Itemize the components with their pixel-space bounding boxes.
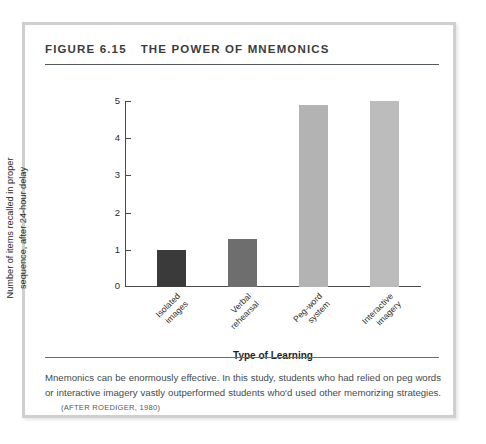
- y-tick-label-5: 5: [115, 94, 120, 107]
- y-tick-label-0: 0: [115, 279, 120, 292]
- bars-group: [125, 101, 421, 287]
- bar-chart: Number of items recalled in proper seque…: [25, 77, 453, 347]
- title-divider: [45, 64, 439, 65]
- figure-panel: FIGURE 6.15THE POWER OF MNEMONICS Number…: [22, 22, 456, 418]
- bar-peg-word-system: [299, 105, 328, 287]
- x-axis-title: Type of Learning: [125, 350, 421, 361]
- bar-isolated-images: [157, 250, 186, 287]
- y-tick-label-1: 1: [115, 243, 120, 256]
- y-tick-label-3: 3: [115, 168, 120, 181]
- y-tick-label-2: 2: [115, 206, 120, 219]
- bar-verbal-rehearsal: [228, 239, 257, 287]
- figure-caption: Mnemonics can be enormously effective. I…: [45, 371, 441, 416]
- y-tick-label-4: 4: [115, 131, 120, 144]
- caption-divider: [45, 357, 439, 358]
- caption-text: Mnemonics can be enormously effective. I…: [45, 372, 441, 398]
- figure-header: FIGURE 6.15THE POWER OF MNEMONICS: [45, 43, 439, 65]
- y-axis-title: Number of items recalled in proper seque…: [4, 133, 29, 323]
- page-title: THE POWER OF MNEMONICS: [141, 43, 330, 55]
- y-axis-title-line-2: sequence, after 24-hour delay: [17, 133, 30, 323]
- y-axis-title-line-1: Number of items recalled in proper: [4, 133, 17, 323]
- figure-number: FIGURE 6.15: [45, 43, 127, 55]
- caption-source: (AFTER ROEDIGER, 1980): [61, 403, 160, 412]
- figure-title-line: FIGURE 6.15THE POWER OF MNEMONICS: [45, 43, 439, 55]
- bar-interactive-imagery: [370, 101, 399, 287]
